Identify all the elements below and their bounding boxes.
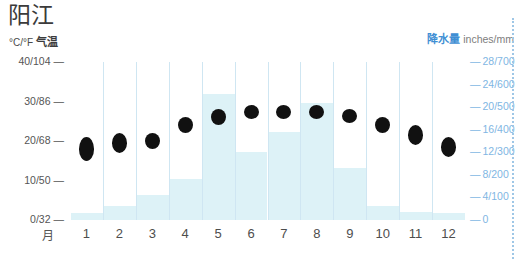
precipitation-tick: —28/700 [470, 55, 515, 67]
month-column [70, 62, 103, 220]
tick-dash: — [470, 213, 483, 225]
month-label: 6 [235, 226, 268, 241]
climate-chart: 阳江 °C/°F 气温 降水量 inches/mm 40/104—30/86—2… [0, 0, 530, 259]
precipitation-bar [367, 206, 399, 220]
precipitation-bar [236, 152, 268, 220]
temperature-range-marker [211, 109, 226, 125]
month-label: 12 [432, 226, 465, 241]
temperature-tick-label: 10/50 [24, 174, 50, 186]
temperature-tick-label: 0/32 [30, 213, 50, 225]
tick-dash: — [470, 100, 483, 112]
precipitation-tick: —8/200 [470, 168, 509, 180]
month-label: 10 [366, 226, 399, 241]
precipitation-tick: —0 [470, 213, 488, 225]
tick-dash: — [51, 95, 65, 107]
precipitation-bar [137, 195, 169, 220]
month-label: 3 [136, 226, 169, 241]
temperature-axis-unit: °C/°F [9, 37, 33, 48]
tick-dash: — [470, 145, 483, 157]
precipitation-bar [301, 103, 333, 220]
temperature-range-marker [145, 133, 160, 149]
tick-dash: — [470, 190, 483, 202]
month-unit-label: 月 [42, 226, 54, 243]
month-column [235, 62, 268, 220]
month-axis: 123456789101112 [70, 226, 465, 246]
month-label: 9 [333, 226, 366, 241]
month-column [169, 62, 202, 220]
tick-dash: — [470, 78, 483, 90]
month-column [399, 62, 432, 220]
tick-dash: — [51, 55, 65, 67]
tick-dash: — [470, 168, 483, 180]
precipitation-bar [433, 213, 465, 220]
temperature-tick: 0/32— [2, 213, 64, 225]
temperature-tick: 40/104— [2, 55, 64, 67]
precipitation-bar [334, 168, 366, 220]
precipitation-bar [269, 132, 301, 220]
column-separator [103, 62, 104, 220]
precipitation-tick: —4/100 [470, 190, 509, 202]
tick-dash: — [470, 55, 483, 67]
temperature-range-marker [276, 105, 291, 119]
month-label: 7 [268, 226, 301, 241]
column-separator [366, 62, 367, 220]
precipitation-tick: —12/300 [470, 145, 515, 157]
temperature-tick: 10/50— [2, 174, 64, 186]
precipitation-tick: —16/400 [470, 123, 515, 135]
precipitation-bar [400, 212, 432, 220]
precipitation-tick-label: 8/200 [483, 168, 509, 180]
temperature-range-marker [178, 117, 193, 133]
column-separator [399, 62, 400, 220]
month-column [300, 62, 333, 220]
temperature-range-marker [342, 109, 357, 123]
precipitation-axis-unit: inches/mm [463, 33, 514, 45]
month-column [268, 62, 301, 220]
column-separator [432, 62, 433, 220]
precipitation-tick-label: 0 [483, 213, 489, 225]
precipitation-bar [104, 206, 136, 220]
month-label: 4 [169, 226, 202, 241]
page-title: 阳江 [8, 2, 54, 28]
temperature-tick: 30/86— [2, 95, 64, 107]
temperature-range-marker [408, 125, 423, 145]
month-column [103, 62, 136, 220]
precipitation-tick: —20/500 [470, 100, 515, 112]
month-column [333, 62, 366, 220]
precipitation-tick: —24/600 [470, 78, 515, 90]
temperature-range-marker [79, 137, 94, 161]
temperature-tick-label: 40/104 [18, 55, 50, 67]
month-label: 5 [202, 226, 235, 241]
right-dotted-border [512, 18, 514, 259]
plot-area [70, 62, 465, 220]
month-column [136, 62, 169, 220]
precipitation-bar [71, 213, 103, 220]
month-column [202, 62, 235, 220]
temperature-range-marker [244, 105, 259, 119]
precipitation-tick-label: 20/500 [483, 100, 515, 112]
tick-dash: — [51, 134, 65, 146]
precipitation-tick-label: 28/700 [483, 55, 515, 67]
temperature-range-marker [375, 117, 390, 133]
month-label: 8 [300, 226, 333, 241]
precipitation-tick-label: 12/300 [483, 145, 515, 157]
temperature-tick-label: 30/86 [24, 95, 50, 107]
precipitation-tick-label: 4/100 [483, 190, 509, 202]
month-label: 1 [70, 226, 103, 241]
temperature-range-marker [112, 133, 127, 153]
month-column [366, 62, 399, 220]
month-label: 2 [103, 226, 136, 241]
temperature-axis-label-cn: 气温 [36, 36, 58, 48]
tick-dash: — [51, 174, 65, 186]
temperature-axis-caption: °C/°F 气温 [9, 33, 58, 49]
tick-dash: — [470, 123, 483, 135]
precipitation-tick-label: 16/400 [483, 123, 515, 135]
precipitation-bar [170, 179, 202, 220]
month-column [432, 62, 465, 220]
precipitation-tick-label: 24/600 [483, 78, 515, 90]
precipitation-axis-label-cn: 降水量 [427, 33, 460, 45]
temperature-tick: 20/68— [2, 134, 64, 146]
temperature-range-marker [441, 137, 456, 157]
temperature-tick-label: 20/68 [24, 134, 50, 146]
precipitation-axis-caption: 降水量 inches/mm [427, 30, 514, 46]
tick-dash: — [51, 213, 65, 225]
